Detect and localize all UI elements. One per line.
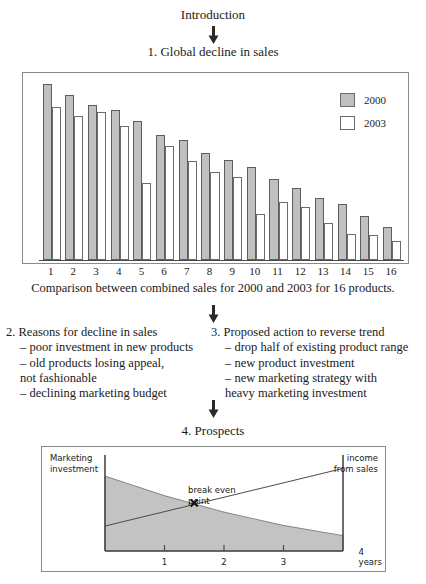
bar-2003 xyxy=(301,207,310,260)
x-axis-tick-label: 3 xyxy=(93,265,99,277)
legend-label: 2000 xyxy=(364,94,386,106)
bar-2000 xyxy=(315,198,324,260)
bar-group xyxy=(64,79,87,260)
legend-label: 2003 xyxy=(364,117,386,129)
list-item: heavy marketing investment xyxy=(225,386,426,401)
bar-2003 xyxy=(256,214,265,260)
bar-2003 xyxy=(392,241,401,260)
legend-item: 2000 xyxy=(340,93,386,107)
bar-group xyxy=(291,79,314,260)
list-item: – declining marketing budget xyxy=(20,386,210,401)
bar-2003 xyxy=(347,234,356,260)
bar-chart-legend: 20002003 xyxy=(340,93,386,139)
x-axis-tick-label: 11 xyxy=(272,265,283,277)
bar-2003 xyxy=(324,223,333,260)
bar-2003 xyxy=(52,107,61,260)
bar-2003 xyxy=(369,235,378,260)
break-even-point-label: break evenpoint xyxy=(188,485,236,507)
bar-2000 xyxy=(383,227,392,260)
bar-2003 xyxy=(74,116,83,260)
bar-group xyxy=(109,79,132,260)
x-axis-tick-label: 14 xyxy=(340,265,351,277)
chart-caption: Comparison between combined sales for 20… xyxy=(0,281,426,295)
down-arrow-icon xyxy=(208,26,219,44)
arrow-intro-to-section1 xyxy=(0,26,426,44)
section1-title: 1. Global decline in sales xyxy=(0,45,426,60)
bar-group xyxy=(177,79,200,260)
bar-2003 xyxy=(165,146,174,260)
bar-2000 xyxy=(111,110,120,260)
x-axis-tick-label: 7 xyxy=(184,265,190,277)
x-axis-tick-label: 1 xyxy=(48,265,54,277)
bar-2000 xyxy=(43,84,52,260)
bar-2003 xyxy=(188,161,197,260)
bar-2000 xyxy=(292,188,301,260)
x-axis-tick-label: 15 xyxy=(363,265,374,277)
x-axis-tick-label: 6 xyxy=(161,265,167,277)
bar-group xyxy=(268,79,291,260)
bar-2000 xyxy=(88,105,97,260)
bar-chart-x-axis: 12345678910111213141516 xyxy=(22,265,409,279)
bar-2000 xyxy=(360,216,369,260)
bar-2000 xyxy=(133,121,142,260)
bar-group xyxy=(245,79,268,260)
list-item: not fashionable xyxy=(20,371,210,386)
x-axis-tick-label: 10 xyxy=(249,265,260,277)
bar-group xyxy=(41,79,64,260)
x-axis-tick-label: 9 xyxy=(229,265,235,277)
section4-title: 4. Prospects xyxy=(0,424,426,439)
bar-2000 xyxy=(338,204,347,260)
list-item: – poor investment in new products xyxy=(20,340,210,355)
bar-2000 xyxy=(179,140,188,260)
bar-group xyxy=(313,79,336,260)
bar-2003 xyxy=(210,172,219,260)
bar-2000 xyxy=(224,160,233,260)
section3-block: 3. Proposed action to reverse trend – dr… xyxy=(210,325,426,401)
section2-list: – poor investment in new products– old p… xyxy=(20,340,210,401)
bar-group xyxy=(86,79,109,260)
bar-chart: 20002003 xyxy=(22,72,409,264)
section2-heading: 2. Reasons for decline in sales xyxy=(6,325,210,340)
bar-2003 xyxy=(279,202,288,260)
bar-group xyxy=(223,79,246,260)
list-item: – new marketing strategy with xyxy=(225,371,426,386)
prospects-chart: Marketinginvestment incomefrom sales bre… xyxy=(41,446,386,572)
bar-2000 xyxy=(201,153,210,260)
arrow-sections-to-prospects xyxy=(0,400,426,418)
x-axis-tick-label: 16 xyxy=(385,265,396,277)
bar-2003 xyxy=(142,183,151,260)
slide-canvas: Introduction 1. Global decline in sales … xyxy=(0,0,426,584)
bar-group xyxy=(154,79,177,260)
bar-2003 xyxy=(233,177,242,260)
list-item: – drop half of existing product range xyxy=(225,340,426,355)
marketing-investment-label: Marketinginvestment xyxy=(50,453,98,475)
bar-2000 xyxy=(65,95,74,260)
down-arrow-icon xyxy=(208,400,219,418)
section3-list: – drop half of existing product range– n… xyxy=(225,340,426,401)
prospects-x-tick-label: 3 xyxy=(281,557,286,567)
legend-item: 2003 xyxy=(340,116,386,130)
section2-block: 2. Reasons for decline in sales – poor i… xyxy=(0,325,210,401)
prospects-x-tick-label: 2 xyxy=(221,557,226,567)
x-axis-tick-label: 2 xyxy=(71,265,77,277)
bar-2000 xyxy=(269,179,278,260)
x-axis-tick-label: 4 xyxy=(116,265,122,277)
bar-2000 xyxy=(247,167,256,260)
bar-2000 xyxy=(156,135,165,260)
x-axis-tick-label: 8 xyxy=(207,265,213,277)
down-arrow-icon xyxy=(208,305,219,323)
income-from-sales-label: incomefrom sales xyxy=(334,453,378,475)
bar-group xyxy=(132,79,155,260)
legend-swatch-icon xyxy=(340,116,355,130)
prospects-x-tick-label: 4 years xyxy=(359,547,382,567)
list-item: – new product investment xyxy=(225,356,426,371)
list-item: – old products losing appeal, xyxy=(20,356,210,371)
bar-group xyxy=(200,79,223,260)
legend-swatch-icon xyxy=(340,93,355,107)
bar-2003 xyxy=(97,112,106,260)
prospects-x-tick-label: 1 xyxy=(162,557,167,567)
reasons-and-actions-columns: 2. Reasons for decline in sales – poor i… xyxy=(0,325,426,401)
bar-2003 xyxy=(120,126,129,260)
introduction-title: Introduction xyxy=(0,8,426,23)
bar-chart-baseline xyxy=(39,260,404,261)
